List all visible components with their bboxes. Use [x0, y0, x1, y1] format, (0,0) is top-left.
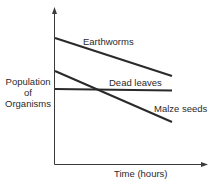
x-axis-arrow-icon	[201, 162, 208, 167]
y-axis-label-line-3: Organisms	[2, 98, 54, 109]
y-axis-arrow-icon	[52, 7, 57, 14]
label-dead-leaves: Dead leaves	[109, 77, 162, 88]
y-axis-label: Population of Organisms	[2, 76, 54, 109]
label-maize-seeds: Malze seeds	[154, 103, 207, 114]
x-axis	[55, 162, 209, 167]
y-axis-label-line-2: of	[2, 87, 54, 98]
x-axis-label: Time (hours)	[114, 168, 168, 179]
label-earthworms: Earthworms	[83, 36, 134, 47]
y-axis-label-line-1: Population	[2, 76, 54, 87]
series-line-dead-leaves	[55, 89, 172, 91]
